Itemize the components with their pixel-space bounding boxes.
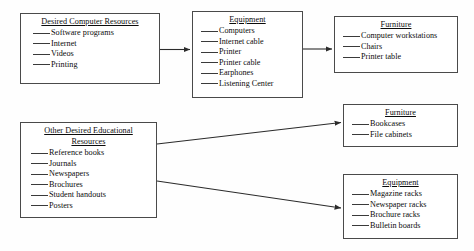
list-item: Videos <box>25 49 155 60</box>
checkline-icon <box>33 54 50 55</box>
list-item: Internet cable <box>197 37 298 48</box>
list-item: Newspaper racks <box>348 200 453 211</box>
box-other-desired-educational-resources: Other Desired Educational Resources Refe… <box>20 122 157 218</box>
list-item-label: Magazine racks <box>370 189 422 198</box>
checkline-icon <box>352 194 369 195</box>
checkline-icon <box>31 153 48 154</box>
list-item-label: Bulletin boards <box>370 221 421 230</box>
list-item: Printer table <box>339 52 453 63</box>
arrow-other-to-equipment <box>157 181 341 208</box>
box-title: Equipment <box>197 15 298 26</box>
checkline-icon <box>31 174 48 175</box>
list-item: File cabinets <box>348 130 453 141</box>
checkline-icon <box>201 73 218 74</box>
list-item-label: File cabinets <box>370 130 412 139</box>
list-item-label: Chairs <box>361 42 382 51</box>
checkline-icon <box>352 215 369 216</box>
box-title: Furniture <box>348 108 453 119</box>
checkline-icon <box>352 134 369 135</box>
box-title: Desired Computer Resources <box>25 17 155 28</box>
box-title-line-2: Resources <box>25 137 152 148</box>
arrow-other-to-furniture <box>157 123 341 145</box>
checkline-icon <box>352 124 369 125</box>
list-item: Computer workstations <box>339 31 453 42</box>
box-item-list: Magazine racks Newspaper racks Brochure … <box>348 189 453 231</box>
list-item: Internet <box>25 39 155 50</box>
list-item: Earphones <box>197 68 298 79</box>
list-item-label: Listening Center <box>219 79 274 88</box>
list-item-label: Software programs <box>51 28 114 37</box>
checkline-icon <box>31 163 48 164</box>
diagram-canvas: Desired Computer Resources Software prog… <box>0 0 474 251</box>
checkline-icon <box>33 33 50 34</box>
list-item: Bookcases <box>348 119 453 130</box>
box-furniture-top: Furniture Computer workstations Chairs P… <box>334 16 458 73</box>
box-title: Furniture <box>339 20 453 31</box>
checkline-icon <box>201 62 218 63</box>
box-item-list: Computer workstations Chairs Printer tab… <box>339 31 453 63</box>
list-item: Journals <box>25 159 152 170</box>
checkline-icon <box>201 41 218 42</box>
list-item-label: Videos <box>51 49 74 58</box>
list-item-label: Internet cable <box>219 37 264 46</box>
box-title: Equipment <box>348 178 453 189</box>
box-item-list: Reference books Journals Newspapers Broc… <box>25 148 152 212</box>
list-item: Reference books <box>25 148 152 159</box>
checkline-icon <box>31 195 48 196</box>
list-item: Listening Center <box>197 79 298 90</box>
box-item-list: Bookcases File cabinets <box>348 119 453 140</box>
list-item: Software programs <box>25 28 155 39</box>
box-equipment-top: Equipment Computers Internet cable Print… <box>192 11 303 98</box>
list-item: Printer cable <box>197 58 298 69</box>
list-item-label: Posters <box>49 201 73 210</box>
list-item-label: Printer <box>219 47 241 56</box>
list-item-label: Reference books <box>49 148 104 157</box>
checkline-icon <box>201 31 218 32</box>
list-item: Computers <box>197 26 298 37</box>
list-item: Bulletin boards <box>348 221 453 232</box>
list-item-label: Computer workstations <box>361 31 437 40</box>
list-item-label: Printer table <box>361 52 401 61</box>
checkline-icon <box>343 36 360 37</box>
list-item-label: Computers <box>219 26 255 35</box>
list-item-label: Bookcases <box>370 119 405 128</box>
box-title-line-1: Other Desired Educational <box>25 126 152 137</box>
list-item-label: Printing <box>51 60 78 69</box>
list-item: Chairs <box>339 42 453 53</box>
list-item-label: Newspaper racks <box>370 200 426 209</box>
list-item: Magazine racks <box>348 189 453 200</box>
list-item: Student handouts <box>25 190 152 201</box>
checkline-icon <box>33 43 50 44</box>
list-item-label: Newspapers <box>49 169 89 178</box>
list-item: Brochures <box>25 180 152 191</box>
list-item-label: Journals <box>49 159 76 168</box>
checkline-icon <box>31 205 48 206</box>
checkline-icon <box>201 83 218 84</box>
list-item-label: Printer cable <box>219 58 260 67</box>
list-item-label: Student handouts <box>49 190 106 199</box>
list-item: Posters <box>25 201 152 212</box>
list-item-label: Internet <box>51 39 77 48</box>
list-item: Newspapers <box>25 169 152 180</box>
list-item-label: Brochures <box>49 180 83 189</box>
list-item: Brochure racks <box>348 210 453 221</box>
list-item: Printing <box>25 60 155 71</box>
box-item-list: Software programs Internet Videos Printi… <box>25 28 155 70</box>
box-desired-computer-resources: Desired Computer Resources Software prog… <box>20 13 160 84</box>
box-furniture-middle: Furniture Bookcases File cabinets <box>343 104 458 147</box>
checkline-icon <box>352 225 369 226</box>
checkline-icon <box>343 46 360 47</box>
list-item: Printer <box>197 47 298 58</box>
box-item-list: Computers Internet cable Printer Printer… <box>197 26 298 90</box>
list-item-label: Earphones <box>219 68 253 77</box>
checkline-icon <box>352 204 369 205</box>
list-item-label: Brochure racks <box>370 210 420 219</box>
checkline-icon <box>33 64 50 65</box>
checkline-icon <box>343 57 360 58</box>
box-equipment-bottom: Equipment Magazine racks Newspaper racks… <box>343 174 458 239</box>
checkline-icon <box>201 52 218 53</box>
checkline-icon <box>31 184 48 185</box>
